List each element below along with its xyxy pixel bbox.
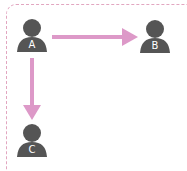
node-label-a: A [22, 40, 42, 50]
arrow-a-to-b [52, 28, 138, 46]
node-label-b: B [145, 41, 165, 51]
arrow-a-to-c [23, 58, 41, 120]
node-label-c: C [22, 145, 42, 155]
